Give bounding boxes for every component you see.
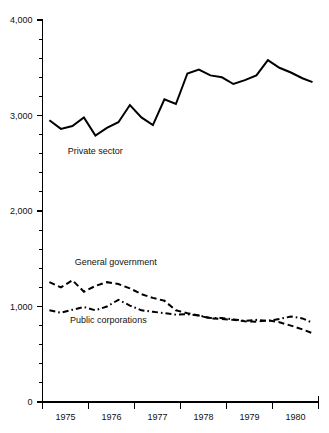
series-lines [49, 60, 312, 333]
x-axis-tick-label: 1975 [55, 412, 75, 422]
series-line-private-sector [49, 60, 312, 135]
y-axis-tick-label: 1,000 [10, 302, 33, 312]
series-label-general-government: General government [75, 257, 158, 267]
y-axis-tick-label: 3,000 [10, 111, 33, 121]
x-axis-tick-label: 1980 [285, 412, 305, 422]
y-axis: 01,0002,0003,0004,000 [10, 15, 43, 407]
y-axis-tick-label: 0 [27, 397, 32, 407]
line-chart: 01,0002,0003,0004,000 197519761977197819… [0, 0, 329, 433]
y-axis-tick-label: 4,000 [10, 15, 33, 25]
x-axis-tick-label: 1977 [147, 412, 167, 422]
x-axis-tick-label: 1979 [239, 412, 259, 422]
series-line-general-government [49, 280, 312, 333]
chart-container: 01,0002,0003,0004,000 197519761977197819… [0, 0, 329, 433]
x-axis-tick-label: 1976 [101, 412, 121, 422]
x-axis-tick-label: 1978 [193, 412, 213, 422]
series-label-public-corporations: Public corporations [70, 315, 147, 325]
x-axis: 197519761977197819791980 [43, 396, 319, 423]
y-axis-tick-label: 2,000 [10, 206, 33, 216]
series-annotations: Private sectorGeneral governmentPublic c… [68, 146, 157, 325]
series-label-private-sector: Private sector [68, 146, 123, 156]
